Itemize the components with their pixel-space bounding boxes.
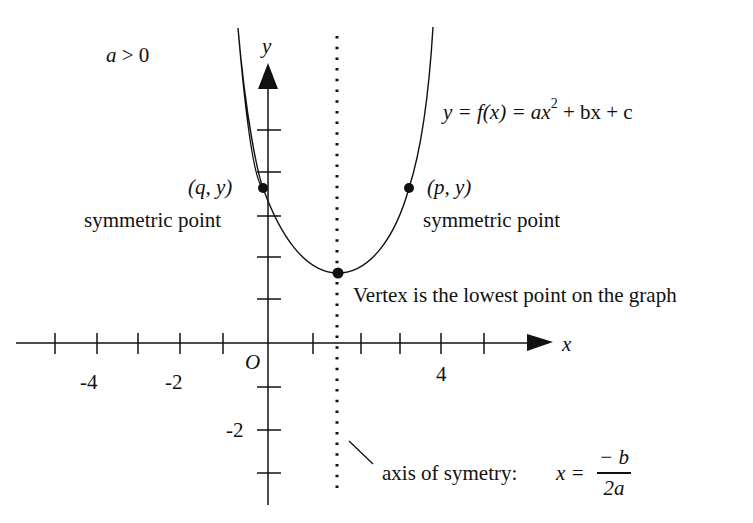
equation-exponent: 2	[551, 96, 558, 111]
x-axis-arrow-icon	[527, 334, 553, 351]
symmetric-point-left-coord: (q, y)	[188, 177, 232, 198]
x-tick-label-4: 4	[436, 364, 447, 385]
axis-of-symmetry-lhs: x =	[556, 463, 585, 484]
equation-rhs: + bx + c	[558, 100, 633, 124]
axis-of-symmetry-label: axis of symetry:	[382, 463, 517, 484]
symmetric-point-right-caption: symmetric point	[423, 210, 560, 231]
x-tick-label-neg4: -4	[80, 372, 98, 393]
symmetric-point-left-marker	[258, 183, 268, 193]
symmetric-point-left-caption: symmetric point	[84, 210, 221, 231]
vertex-caption: Vertex is the lowest point on the graph	[353, 285, 677, 306]
vertex-marker	[333, 268, 344, 279]
fraction-denominator: 2a	[597, 474, 631, 501]
equation-label: y = f(x) = ax2 + bx + c	[443, 100, 633, 123]
x-tick-label-neg2: -2	[165, 372, 183, 393]
origin-label: O	[245, 352, 260, 373]
y-tick-label-neg2: -2	[226, 420, 244, 441]
fraction-numerator: − b	[597, 445, 631, 474]
axis-of-symmetry-fraction: − b 2a	[597, 445, 631, 501]
parabola-diagram: a > 0 y x O -4 -2 4 -2 y = f(x) = ax2 + …	[0, 0, 753, 523]
y-axis-label: y	[262, 36, 271, 57]
symmetric-point-right-coord: (p, y)	[427, 177, 471, 198]
y-axis-arrow-icon	[258, 63, 278, 89]
y-axis	[257, 80, 281, 505]
equation-lhs: y = f(x) = ax	[443, 100, 551, 124]
condition-label: a > 0	[106, 45, 149, 66]
symmetric-point-right-marker	[404, 183, 414, 193]
diagram-canvas	[0, 0, 753, 523]
axis-of-symmetry-leader	[349, 441, 373, 464]
x-axis	[16, 333, 530, 354]
x-axis-label: x	[562, 334, 571, 355]
